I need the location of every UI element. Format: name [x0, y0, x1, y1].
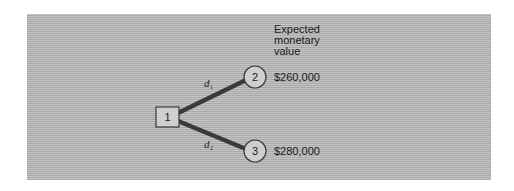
chance-node-3: 3	[244, 140, 266, 162]
chance-node-2: 2	[244, 66, 266, 88]
svg-text:1: 1	[164, 111, 170, 123]
emv-value-node-3: $280,000	[274, 146, 320, 157]
emv-value-node-2: $260,000	[274, 72, 320, 83]
svg-text:1: 1	[210, 84, 213, 90]
emv-column-header: Expected monetary value	[274, 24, 334, 57]
decision-tree-figure: d 1 d 2 1 2 3 Expected monetary value $2…	[0, 0, 514, 191]
edge-label-d2: d 2	[204, 138, 213, 151]
svg-text:2: 2	[210, 145, 213, 151]
edge-label-d1: d 1	[204, 77, 213, 90]
svg-text:3: 3	[252, 145, 258, 157]
svg-text:2: 2	[252, 71, 258, 83]
decision-node-1: 1	[156, 107, 179, 127]
decision-tree-graph: d 1 d 2 1 2 3	[0, 0, 514, 191]
